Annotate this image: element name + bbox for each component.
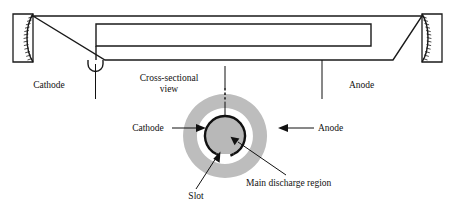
cathode-slot-right-lip (230, 154, 233, 156)
right-mirror-icon (422, 14, 442, 62)
cathode-circle (205, 116, 245, 154)
main-discharge-region-label: Main discharge region (246, 178, 332, 188)
cross-anode-arrowhead (278, 124, 288, 132)
slot-label: Slot (188, 191, 204, 201)
discharge-tube-figure: Cathode Anode Cross-sectional view Catho… (0, 0, 455, 208)
tube-envelope (33, 16, 422, 60)
longitudinal-section: Cathode Anode Cross-sectional view (13, 14, 442, 99)
top-anode-label: Anode (349, 80, 374, 90)
inner-bore (96, 24, 371, 46)
cross-anode-label: Anode (318, 123, 343, 133)
cross-cathode-label: Cathode (132, 123, 164, 133)
cross-sectional-label-line1: Cross-sectional (140, 73, 199, 83)
cross-sectional-label-line2: view (160, 84, 179, 94)
left-mirror-icon (13, 14, 33, 62)
top-cathode-label: Cathode (33, 80, 65, 90)
figure-canvas: Cathode Anode Cross-sectional view Catho… (0, 0, 455, 208)
